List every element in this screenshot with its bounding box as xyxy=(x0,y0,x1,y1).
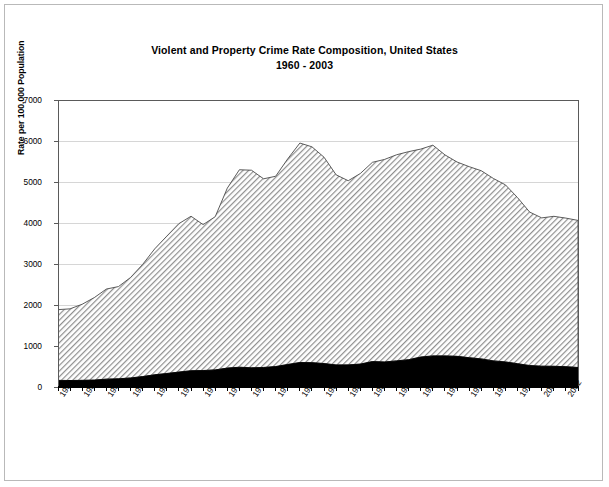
y-tick-label: 6000 xyxy=(0,137,42,145)
plot-border xyxy=(58,100,579,387)
plot-area xyxy=(58,100,579,387)
y-tick-label: 5000 xyxy=(0,178,42,186)
chart-title-line2: 1960 - 2003 xyxy=(5,58,604,73)
y-tick-label: 0 xyxy=(0,383,42,391)
figure-frame: Violent and Property Crime Rate Composit… xyxy=(4,4,603,481)
y-tick-label: 1000 xyxy=(0,342,42,350)
y-tick-label: 4000 xyxy=(0,219,42,227)
y-tick-label: 7000 xyxy=(0,96,42,104)
chart-title-line1: Violent and Property Crime Rate Composit… xyxy=(151,44,458,56)
chart-title: Violent and Property Crime Rate Composit… xyxy=(5,43,604,73)
y-tick-label: 3000 xyxy=(0,260,42,268)
y-tick-label: 2000 xyxy=(0,301,42,309)
